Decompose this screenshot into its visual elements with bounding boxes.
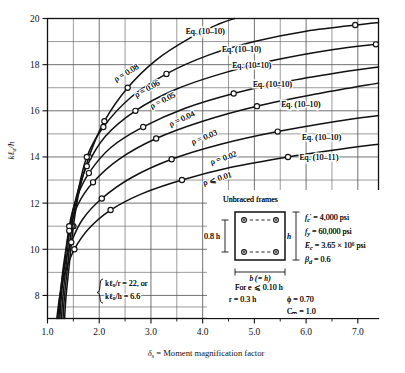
data-point (164, 71, 169, 76)
data-point (84, 154, 89, 159)
data-point (99, 196, 104, 201)
rho-label-1: ρ = 0.06ρ = 0.06 (133, 78, 161, 99)
equation-label-6: Eq. (10–11)Eq. (10–11) (300, 153, 339, 162)
data-point (133, 108, 138, 113)
inset-panel: Unbraced framesUnbraced frames0.8 h0.8 h… (204, 190, 385, 318)
equation-label-text: Eq. (10–10) (281, 100, 320, 109)
x-tick-label: 1.0 (42, 327, 54, 337)
data-point (84, 164, 89, 169)
x-tick-label: 6.0 (300, 327, 312, 337)
rebar-center-1-0 (243, 251, 245, 253)
material-property-1: fy = 60,000 psify = 60,000 psi (305, 227, 353, 237)
rho-label-0: ρ = 0.08ρ = 0.08 (112, 62, 140, 84)
inset-note-2-left: r = 0.3 hr = 0.3 h (229, 295, 256, 304)
equation-label-text: Eq. (10–10) (222, 45, 261, 54)
data-point (275, 129, 280, 134)
rho-label-3: ρ = 0.04ρ = 0.04 (168, 109, 196, 129)
width-dimension-label: b (= h)b (= h) (250, 274, 272, 283)
inset-note-2-left-text: r = 0.3 h (229, 295, 256, 304)
equation-label-2: Eq. (10–10)Eq. (10–10) (232, 61, 271, 70)
inset-title: Unbraced framesUnbraced frames (223, 195, 278, 204)
slenderness-annotation: kℓᵤ/r = 22, orkℓᵤ/r = 22, orkℓᵤ/h = 6.6k… (97, 279, 148, 303)
height-dimension-label: hh (287, 232, 291, 241)
data-point (254, 104, 259, 109)
equation-label-text: Eq. (10–10) (186, 27, 225, 36)
y-tick-label: 10 (30, 245, 40, 255)
rho-label-text: ρ = 0.08 (112, 62, 140, 84)
y-tick-label: 14 (30, 152, 40, 162)
data-point (285, 154, 290, 159)
material-property-text: fc′ = 4,000 psi (305, 212, 350, 223)
rebar-center-1-1 (275, 251, 277, 253)
x-axis-title: δs = Moment magnification factor (148, 348, 265, 359)
rebar-center-0-1 (275, 219, 277, 221)
slenderness-line-2: kℓᵤ/h = 6.6kℓᵤ/h = 6.6 (105, 292, 140, 301)
equation-label-4: Eq. (10–10)Eq. (10–10) (281, 100, 320, 109)
data-point (125, 85, 130, 90)
data-point (231, 91, 236, 96)
material-property-text: fy = 60,000 psi (305, 227, 353, 237)
equation-label-text: Eq. (10–10) (253, 80, 292, 89)
equation-labels: Eq. (10–10)Eq. (10–10)Eq. (10–10)Eq. (10… (186, 27, 342, 163)
data-point (373, 42, 378, 47)
x-tick-label: 4.0 (197, 327, 209, 337)
depth-dimension-label-text: 0.8 h (204, 232, 220, 241)
rho-label-text: ρ = 0.06 (133, 78, 161, 99)
inset-title-text: Unbraced frames (223, 195, 278, 204)
equation-label-text: Eq. (10–11) (300, 153, 339, 162)
rho-label-4: ρ = 0.03ρ = 0.03 (190, 128, 219, 147)
data-point (353, 22, 358, 27)
inset-note-2-right-text: ϕ = 0.70 (287, 295, 314, 304)
equation-label-5: Eq. (10–10)Eq. (10–10) (302, 133, 341, 142)
y-axis-title: kℓu/h (6, 141, 17, 159)
inset-note-1: For e ⩽ 0.10 hFor e ⩽ 0.10 h (235, 283, 283, 292)
rebar-center-0-0 (243, 219, 245, 221)
material-property-3: βd = 0.6βd = 0.6 (304, 255, 331, 265)
data-point (101, 124, 106, 129)
material-property-2: Ec = 3.65 × 10⁶ psiEc = 3.65 × 10⁶ psi (304, 241, 367, 251)
inset-note-3-right: Cₘ = 1.0Cₘ = 1.0 (287, 307, 316, 316)
x-tick-label: 7.0 (352, 327, 364, 337)
material-property-text: Ec = 3.65 × 10⁶ psi (304, 241, 367, 251)
equation-label-0: Eq. (10–10)Eq. (10–10) (186, 27, 225, 36)
data-point (141, 124, 146, 129)
equation-label-text: Eq. (10–10) (232, 61, 271, 70)
data-point (67, 228, 72, 233)
moment-magnification-chart: 1.02.03.04.05.06.07.08101214161820 ρ = 0… (0, 0, 405, 373)
width-dimension-label-text: b (= h) (250, 274, 272, 283)
x-tick-label: 2.0 (93, 327, 105, 337)
slenderness-line-1: kℓᵤ/r = 22, orkℓᵤ/r = 22, or (105, 279, 148, 288)
rho-label-text: ρ = 0.05 (149, 90, 177, 110)
equation-label-3: Eq. (10–10)Eq. (10–10) (253, 80, 292, 89)
material-property-0: fc′ = 4,000 psifc′ = 4,000 psi (305, 212, 350, 223)
data-point (90, 180, 95, 185)
data-point (69, 240, 74, 245)
data-point (108, 207, 113, 212)
slenderness-line-1-text: kℓᵤ/r = 22, or (105, 279, 148, 288)
y-tick-label: 20 (30, 14, 40, 24)
y-tick-label: 16 (30, 106, 40, 116)
slenderness-line-2-text: kℓᵤ/h = 6.6 (105, 292, 140, 301)
rho-label-5: ρ = 0.02ρ = 0.02 (209, 149, 238, 166)
x-tick-label: 5.0 (248, 327, 260, 337)
rho-label-text: ρ = 0.04 (168, 109, 196, 129)
equation-label-1: Eq. (10–10)Eq. (10–10) (222, 45, 261, 54)
inset-note-2-right: ϕ = 0.70ϕ = 0.70 (287, 295, 314, 304)
data-point (154, 136, 159, 141)
rho-label-2: ρ = 0.05ρ = 0.05 (149, 90, 177, 110)
y-tick-label: 18 (30, 60, 40, 70)
rho-label-text: ρ = 0.02 (209, 149, 238, 166)
material-property-text: βd = 0.6 (304, 255, 331, 265)
depth-dimension-label: 0.8 h0.8 h (204, 232, 220, 241)
inset-note-1-text: For e ⩽ 0.10 h (235, 283, 283, 292)
y-tick-label: 8 (35, 291, 40, 301)
y-tick-label: 12 (30, 199, 40, 209)
inset-note-3-right-text: Cₘ = 1.0 (287, 307, 316, 316)
x-tick-label: 3.0 (145, 327, 157, 337)
figure-container: 1.02.03.04.05.06.07.08101214161820 ρ = 0… (0, 0, 405, 373)
data-point (72, 247, 77, 252)
data-point (86, 171, 91, 176)
data-point (102, 119, 107, 124)
brace-icon (97, 279, 103, 303)
data-point (179, 177, 184, 182)
